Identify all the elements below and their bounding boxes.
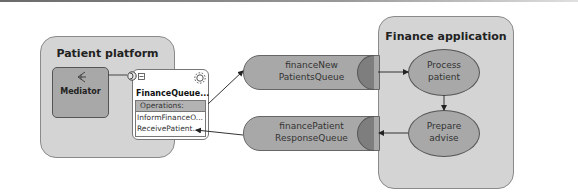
component-to-new-patients-arrow: [208, 71, 243, 104]
connectors: [0, 0, 578, 193]
response-queue-to-component-arrow: [196, 130, 243, 135]
